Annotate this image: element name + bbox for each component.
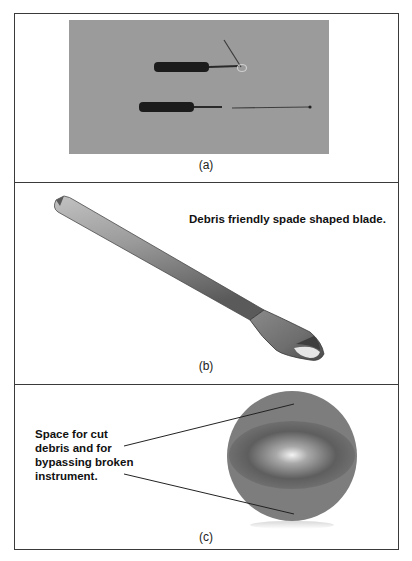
panel-divider-ab xyxy=(14,182,399,183)
panel-c-caption: (c) xyxy=(186,530,226,544)
panel-b-caption: (b) xyxy=(186,359,226,373)
panel-divider-bc xyxy=(14,384,399,385)
inner-core xyxy=(229,421,355,489)
panel-c-annotation: Space for cut debris and for bypassing b… xyxy=(35,427,145,483)
panel-a-photo xyxy=(69,20,329,154)
circle-shadow xyxy=(250,521,334,529)
panel-a-caption: (a) xyxy=(186,158,226,172)
panel-b-annotation: Debris friendly spade shaped blade. xyxy=(189,213,386,225)
